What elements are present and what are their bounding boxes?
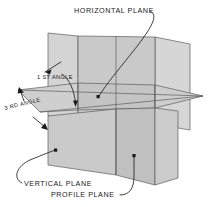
label-profile-plane: PROFILE PLANE (51, 190, 114, 199)
profile-plane-lower (116, 108, 155, 185)
projection-planes-diagram: HORIZONTAL PLANE 1 ST ANGLE 3 RD ANGLE V… (0, 0, 208, 207)
diagram-canvas: HORIZONTAL PLANE 1 ST ANGLE 3 RD ANGLE V… (0, 0, 208, 207)
label-vertical-plane: VERTICAL PLANE (24, 179, 92, 188)
label-horizontal-plane: HORIZONTAL PLANE (74, 6, 154, 15)
leader-dot-horizontal-plane (97, 95, 100, 98)
arrow-third-angle-down (33, 117, 48, 130)
vertical-plane-lower (48, 109, 116, 175)
leader-dot-profile-plane (132, 154, 135, 157)
leader-dot-vertical-plane (54, 149, 57, 152)
profile-plane-lower-right (155, 108, 178, 185)
